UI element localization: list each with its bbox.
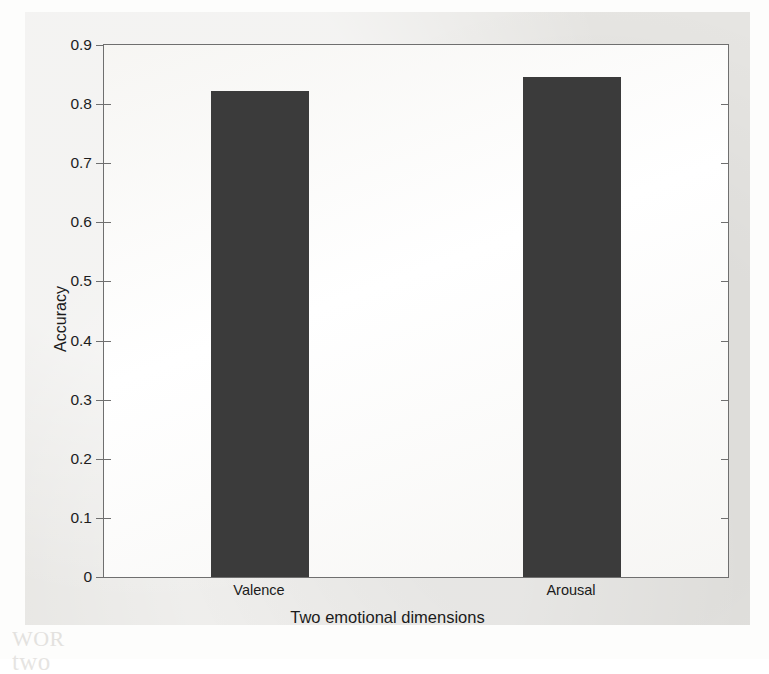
chart-figure: Accuracy 00.10.20.30.40.50.60.70.80.9 Va… xyxy=(25,12,750,625)
y-tick-mark xyxy=(96,163,104,164)
y-tick-mark xyxy=(96,518,104,519)
y-axis-title: Accuracy xyxy=(52,286,70,352)
y-tick-label: 0.9 xyxy=(70,36,92,54)
y-tick-mark xyxy=(96,222,104,223)
y-tick-label: 0.1 xyxy=(70,509,92,527)
category-label-valence: Valence xyxy=(233,582,284,598)
plot-area: 00.10.20.30.40.50.60.70.80.9 xyxy=(103,44,729,578)
y-tick-mark-right xyxy=(721,400,728,401)
y-tick-mark-right xyxy=(721,104,728,105)
y-tick-mark-inner xyxy=(104,222,111,223)
y-tick-mark-inner xyxy=(104,104,111,105)
category-label-arousal: Arousal xyxy=(546,582,595,598)
y-tick-mark-right xyxy=(721,163,728,164)
y-tick-label: 0.2 xyxy=(70,450,92,468)
y-tick-label: 0.4 xyxy=(70,332,92,350)
y-tick-mark-inner xyxy=(104,341,111,342)
y-tick-mark xyxy=(96,104,104,105)
y-tick-mark xyxy=(96,459,104,460)
x-axis-title: Two emotional dimensions xyxy=(25,608,750,627)
y-tick-mark-right xyxy=(721,281,728,282)
y-tick-mark-inner xyxy=(104,163,111,164)
y-tick-mark-right xyxy=(721,341,728,342)
y-tick-mark xyxy=(96,341,104,342)
y-tick-mark xyxy=(96,45,104,46)
y-tick-mark-inner xyxy=(104,400,111,401)
y-tick-mark-inner xyxy=(104,281,111,282)
y-tick-mark-right xyxy=(721,459,728,460)
y-tick-mark xyxy=(96,400,104,401)
y-tick-mark xyxy=(96,281,104,282)
y-tick-mark xyxy=(96,577,104,578)
y-tick-mark-right xyxy=(721,518,728,519)
y-tick-label: 0.8 xyxy=(70,95,92,113)
y-tick-label: 0 xyxy=(83,568,92,586)
y-tick-mark-right xyxy=(721,222,728,223)
y-tick-mark-inner xyxy=(104,459,111,460)
y-tick-label: 0.3 xyxy=(70,391,92,409)
y-tick-label: 0.6 xyxy=(70,213,92,231)
y-tick-label: 0.7 xyxy=(70,154,92,172)
background-ghost-text-4: two xyxy=(12,648,51,674)
y-axis-ticks: 00.10.20.30.40.50.60.70.80.9 xyxy=(104,45,728,577)
y-tick-mark-inner xyxy=(104,518,111,519)
y-tick-label: 0.5 xyxy=(70,272,92,290)
background-ghost-text-3: WOR xyxy=(12,626,65,652)
